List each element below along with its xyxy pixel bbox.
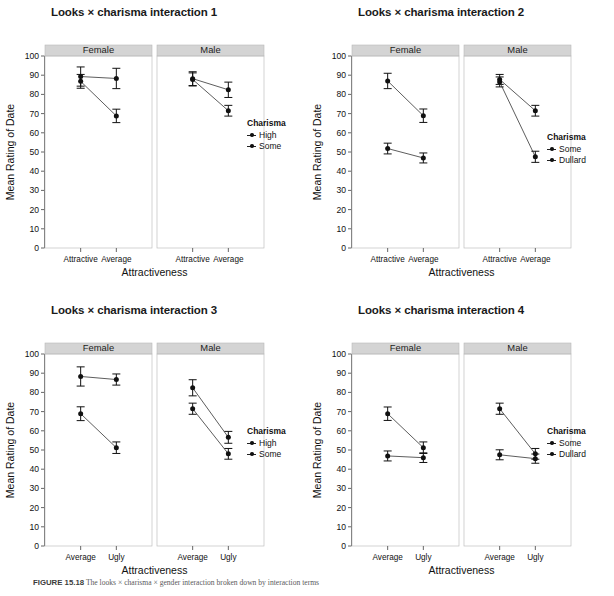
legend-4: Charisma Some Dullard <box>547 426 586 460</box>
svg-text:Attractiveness: Attractiveness <box>429 266 495 278</box>
svg-text:70: 70 <box>336 109 346 119</box>
svg-text:Female: Female <box>83 44 114 55</box>
svg-text:50: 50 <box>29 445 39 455</box>
legend-1: Charisma High Some <box>247 118 286 152</box>
figure-caption: FIGURE 15.18 The looks × charisma × gend… <box>33 578 593 587</box>
svg-text:Mean Rating of Date: Mean Rating of Date <box>311 402 323 498</box>
svg-text:50: 50 <box>336 445 346 455</box>
svg-text:Average: Average <box>177 553 208 562</box>
svg-text:60: 60 <box>29 128 39 138</box>
svg-text:Male: Male <box>200 342 220 353</box>
svg-text:80: 80 <box>29 387 39 397</box>
svg-text:Attractive: Attractive <box>64 255 99 264</box>
legend-label: High <box>259 130 276 141</box>
svg-text:20: 20 <box>29 503 39 513</box>
svg-text:Mean Rating of Date: Mean Rating of Date <box>4 402 16 498</box>
svg-text:Average: Average <box>213 255 244 264</box>
svg-text:80: 80 <box>336 89 346 99</box>
legend-label: Some <box>559 144 581 155</box>
svg-text:Average: Average <box>101 255 132 264</box>
svg-text:40: 40 <box>336 166 346 176</box>
svg-text:Ugly: Ugly <box>220 553 237 562</box>
svg-text:Female: Female <box>390 342 421 353</box>
legend-label: Some <box>259 141 281 152</box>
figure-grid: Looks × charisma interaction 1 010203040… <box>0 0 614 596</box>
svg-text:10: 10 <box>336 224 346 234</box>
svg-text:0: 0 <box>34 243 39 253</box>
legend-item[interactable]: High <box>247 130 286 141</box>
svg-text:90: 90 <box>336 70 346 80</box>
legend-symbol-icon <box>247 450 256 459</box>
svg-text:Attractive: Attractive <box>176 255 211 264</box>
legend-label: High <box>259 438 276 449</box>
legend-item[interactable]: Some <box>547 438 586 449</box>
svg-text:30: 30 <box>29 483 39 493</box>
legend-item[interactable]: High <box>247 438 286 449</box>
legend-symbol-icon <box>247 131 256 140</box>
svg-text:40: 40 <box>29 166 39 176</box>
legend-item[interactable]: Dullard <box>547 449 586 460</box>
legend-symbol-icon <box>547 156 556 165</box>
legend-item[interactable]: Some <box>247 449 286 460</box>
svg-text:30: 30 <box>336 483 346 493</box>
chart-panel-3: Looks × charisma interaction 3 010203040… <box>0 298 307 596</box>
svg-text:Ugly: Ugly <box>527 553 544 562</box>
legend-title-3: Charisma <box>247 426 286 437</box>
svg-text:20: 20 <box>336 205 346 215</box>
svg-text:10: 10 <box>29 224 39 234</box>
svg-text:30: 30 <box>29 185 39 195</box>
svg-text:Average: Average <box>408 255 439 264</box>
svg-text:50: 50 <box>336 147 346 157</box>
legend-item[interactable]: Dullard <box>547 155 586 166</box>
svg-text:Ugly: Ugly <box>415 553 432 562</box>
svg-text:Male: Male <box>507 44 527 55</box>
legend-symbol-icon <box>547 145 556 154</box>
legend-title-4: Charisma <box>547 426 586 437</box>
legend-symbol-icon <box>547 450 556 459</box>
svg-text:0: 0 <box>341 243 346 253</box>
legend-label: Some <box>259 449 281 460</box>
svg-text:Ugly: Ugly <box>108 553 125 562</box>
svg-text:Average: Average <box>65 553 96 562</box>
chart-panel-4: Looks × charisma interaction 4 010203040… <box>307 298 614 596</box>
svg-text:100: 100 <box>332 51 347 61</box>
svg-text:70: 70 <box>29 407 39 417</box>
svg-text:0: 0 <box>341 541 346 551</box>
svg-text:40: 40 <box>29 464 39 474</box>
svg-text:80: 80 <box>336 387 346 397</box>
svg-text:70: 70 <box>29 109 39 119</box>
svg-text:20: 20 <box>29 205 39 215</box>
legend-label: Dullard <box>559 155 586 166</box>
legend-symbol-icon <box>547 439 556 448</box>
svg-text:Attractiveness: Attractiveness <box>429 564 495 576</box>
legend-label: Some <box>559 438 581 449</box>
svg-text:50: 50 <box>29 147 39 157</box>
svg-text:10: 10 <box>29 522 39 532</box>
legend-symbol-icon <box>247 439 256 448</box>
svg-text:Average: Average <box>372 553 403 562</box>
svg-text:100: 100 <box>25 349 40 359</box>
svg-text:Mean Rating of Date: Mean Rating of Date <box>4 104 16 200</box>
svg-text:20: 20 <box>336 503 346 513</box>
svg-text:Male: Male <box>200 44 220 55</box>
svg-text:0: 0 <box>34 541 39 551</box>
svg-text:60: 60 <box>336 426 346 436</box>
svg-text:Mean Rating of Date: Mean Rating of Date <box>311 104 323 200</box>
svg-text:40: 40 <box>336 464 346 474</box>
svg-text:30: 30 <box>336 185 346 195</box>
figure-caption-text: The looks × charisma × gender interactio… <box>86 578 319 587</box>
svg-text:10: 10 <box>336 522 346 532</box>
legend-2: Charisma Some Dullard <box>547 132 586 166</box>
svg-text:Male: Male <box>507 342 527 353</box>
legend-symbol-icon <box>247 142 256 151</box>
svg-text:Average: Average <box>484 553 515 562</box>
legend-3: Charisma High Some <box>247 426 286 460</box>
svg-text:Female: Female <box>83 342 114 353</box>
legend-title-2: Charisma <box>547 132 586 143</box>
svg-text:Attractive: Attractive <box>371 255 406 264</box>
legend-item[interactable]: Some <box>247 141 286 152</box>
legend-label: Dullard <box>559 449 586 460</box>
legend-item[interactable]: Some <box>547 144 586 155</box>
legend-title-1: Charisma <box>247 118 286 129</box>
svg-text:90: 90 <box>336 368 346 378</box>
